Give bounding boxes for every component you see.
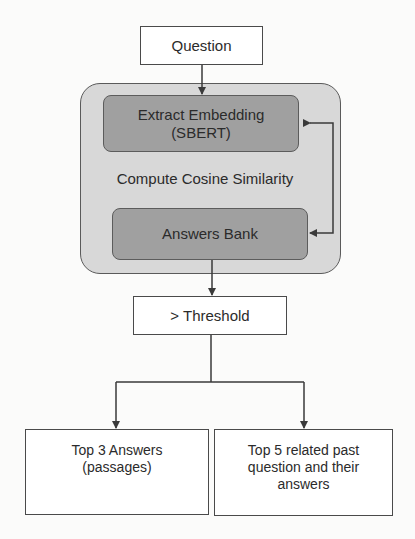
cosine-similarity-label: Compute Cosine Similarity <box>95 170 315 187</box>
question-node: Question <box>140 26 263 65</box>
threshold-label: > Threshold <box>170 307 249 325</box>
diagram-canvas: Question Extract Embedding (SBERT) Compu… <box>0 0 415 539</box>
question-label: Question <box>171 37 231 55</box>
related-questions-label-line1: Top 5 related past <box>248 442 359 459</box>
answers-bank-node: Answers Bank <box>112 208 308 260</box>
related-questions-node: Top 5 related past question and their an… <box>214 429 393 516</box>
extract-embedding-node: Extract Embedding (SBERT) <box>103 95 299 152</box>
extract-embedding-label-line2: (SBERT) <box>171 124 231 142</box>
threshold-node: > Threshold <box>133 296 287 335</box>
answers-bank-label: Answers Bank <box>162 225 258 243</box>
related-questions-label-line2: question and their <box>248 459 359 476</box>
related-questions-label-line3: answers <box>277 476 329 493</box>
extract-embedding-label-line1: Extract Embedding <box>138 106 265 124</box>
top-answers-node: Top 3 Answers (passages) <box>25 429 209 515</box>
top-answers-label-line2: (passages) <box>82 459 151 476</box>
top-answers-label-line1: Top 3 Answers <box>71 442 162 459</box>
